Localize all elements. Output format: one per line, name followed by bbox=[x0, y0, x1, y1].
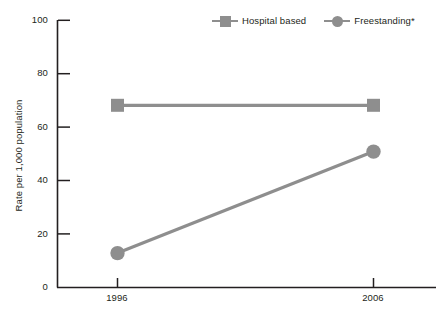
series-line-freestanding bbox=[118, 152, 374, 254]
data-point-freestanding-2006 bbox=[366, 144, 380, 158]
data-point-hospital-based-1996 bbox=[111, 99, 124, 112]
chart-container: Hospital based Freestanding* Rate per 1,… bbox=[0, 0, 443, 312]
data-point-freestanding-1996 bbox=[110, 246, 124, 260]
series-hospital-based bbox=[111, 99, 380, 112]
plot-area bbox=[0, 0, 443, 312]
series-freestanding bbox=[110, 144, 380, 260]
data-point-hospital-based-2006 bbox=[367, 99, 380, 112]
